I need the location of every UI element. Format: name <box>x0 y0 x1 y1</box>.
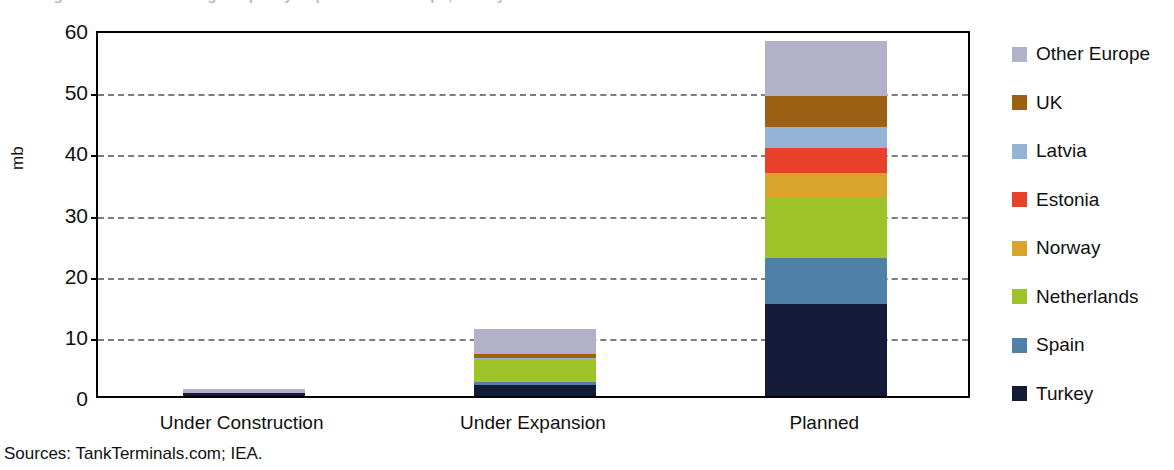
legend-label: Other Europe <box>1036 43 1150 65</box>
bar-segment-turkey[interactable] <box>183 393 305 396</box>
legend-item-latvia[interactable]: Latvia <box>1012 127 1174 176</box>
legend-item-spain[interactable]: Spain <box>1012 321 1174 370</box>
y-axis-tick-label: 10 <box>42 326 88 347</box>
legend-item-turkey[interactable]: Turkey <box>1012 370 1174 419</box>
y-axis-tick-label: 30 <box>42 204 88 225</box>
y-axis-tick-label: 40 <box>42 143 88 164</box>
y-axis-tick-label: 60 <box>42 21 88 42</box>
bar-segment-turkey[interactable] <box>474 385 596 396</box>
legend-swatch-icon <box>1012 241 1027 256</box>
bar-under-construction[interactable] <box>183 389 305 396</box>
chart-figure: Figure: Crude Oil Storage Capacity Expan… <box>0 0 1174 470</box>
bar-segment-estonia[interactable] <box>765 148 887 172</box>
chart-title: Figure: Crude Oil Storage Capacity Expan… <box>40 0 618 3</box>
legend-swatch-icon <box>1012 47 1027 62</box>
legend-item-netherlands[interactable]: Netherlands <box>1012 273 1174 322</box>
legend-label: Spain <box>1036 334 1085 356</box>
bar-segment-norway[interactable] <box>765 173 887 197</box>
bar-segment-other-europe[interactable] <box>765 41 887 96</box>
legend-item-uk[interactable]: UK <box>1012 79 1174 128</box>
chart-legend: Other EuropeUKLatviaEstoniaNorwayNetherl… <box>1012 30 1174 418</box>
bar-segment-latvia[interactable] <box>765 127 887 148</box>
bar-segment-spain[interactable] <box>765 258 887 304</box>
legend-item-norway[interactable]: Norway <box>1012 224 1174 273</box>
y-axis-tick <box>91 339 98 341</box>
bar-segment-netherlands[interactable] <box>474 359 596 382</box>
x-axis-tick-label: Under Expansion <box>460 412 606 434</box>
bar-under-expansion[interactable] <box>474 329 596 396</box>
y-axis-tick-label: 20 <box>42 265 88 286</box>
bar-segment-other-europe[interactable] <box>474 329 596 355</box>
legend-swatch-icon <box>1012 95 1027 110</box>
bar-segment-uk[interactable] <box>765 96 887 127</box>
legend-swatch-icon <box>1012 386 1027 401</box>
bar-segment-turkey[interactable] <box>765 304 887 396</box>
bar-segment-netherlands[interactable] <box>765 197 887 258</box>
y-axis-tick-label: 50 <box>42 82 88 103</box>
legend-item-estonia[interactable]: Estonia <box>1012 176 1174 225</box>
legend-label: UK <box>1036 92 1062 114</box>
y-axis-tick <box>91 94 98 96</box>
legend-swatch-icon <box>1012 192 1027 207</box>
legend-label: Turkey <box>1036 383 1093 405</box>
y-axis-tick <box>91 155 98 157</box>
y-axis-title: mb <box>8 146 28 170</box>
legend-label: Estonia <box>1036 189 1099 211</box>
y-axis-tick <box>91 278 98 280</box>
legend-swatch-icon <box>1012 289 1027 304</box>
bar-planned[interactable] <box>765 41 887 396</box>
plot-area <box>96 31 970 398</box>
legend-swatch-icon <box>1012 144 1027 159</box>
legend-label: Netherlands <box>1036 286 1138 308</box>
y-axis-tick <box>91 217 98 219</box>
legend-label: Norway <box>1036 237 1100 259</box>
x-axis-tick-label: Planned <box>789 412 859 434</box>
sources-note: Sources: TankTerminals.com; IEA. <box>4 444 263 464</box>
y-axis-tick-label: 0 <box>42 388 88 409</box>
legend-item-other-europe[interactable]: Other Europe <box>1012 30 1174 79</box>
legend-swatch-icon <box>1012 338 1027 353</box>
x-axis-tick-label: Under Construction <box>160 412 324 434</box>
legend-label: Latvia <box>1036 140 1087 162</box>
